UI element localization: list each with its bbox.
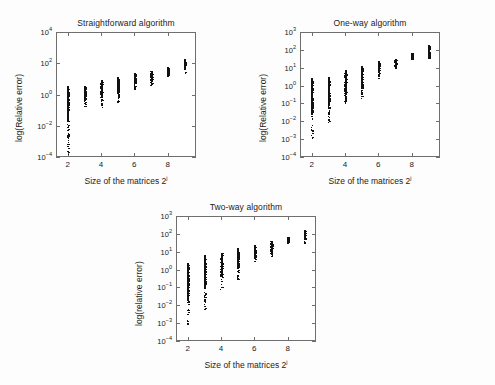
data-point (305, 239, 306, 240)
y-axis-tick (300, 139, 304, 140)
data-point (361, 88, 363, 89)
y-axis-tick (300, 50, 304, 51)
y-axis-tick-label: 10−4 (26, 153, 52, 162)
data-point (220, 289, 221, 290)
y-axis-tick (436, 68, 440, 69)
data-point (68, 129, 70, 130)
x-axis-tick (254, 337, 255, 341)
data-point (411, 58, 413, 59)
y-axis-tick (176, 305, 180, 306)
data-point (151, 82, 152, 83)
x-axis-tick (345, 153, 346, 157)
y-axis-tick (192, 95, 196, 96)
data-point (221, 284, 222, 285)
data-point (68, 140, 69, 141)
data-point (185, 72, 187, 73)
data-point (68, 144, 70, 145)
data-point (237, 277, 238, 278)
data-point (68, 154, 69, 155)
data-point (328, 104, 330, 105)
x-axis-tick (312, 32, 313, 36)
data-point (428, 55, 430, 56)
y-axis-tick (436, 50, 440, 51)
y-axis-tick-label: 10−3 (146, 319, 172, 328)
y-axis-tick-label: 104 (26, 28, 52, 37)
y-axis-tick (300, 68, 304, 69)
x-axis-tick-label: 2 (309, 160, 313, 169)
y-axis-tick-label: 10−1 (146, 283, 172, 292)
data-point (204, 297, 206, 298)
data-point (254, 255, 256, 256)
x-axis-tick-label: 6 (376, 160, 380, 169)
data-point (101, 101, 102, 102)
y-axis-tick-label: 10−2 (270, 117, 296, 126)
data-point (272, 251, 273, 252)
data-point (167, 75, 169, 76)
data-point (237, 279, 239, 280)
y-axis-tick (436, 139, 440, 140)
y-axis-tick (300, 32, 304, 33)
data-point (361, 90, 363, 91)
data-point (238, 271, 239, 272)
y-axis-tick-label: 100 (26, 90, 52, 99)
data-point (204, 300, 206, 301)
x-axis-tick-label: 2 (65, 160, 69, 169)
data-point (117, 93, 119, 94)
y-axis-tick (56, 95, 60, 96)
data-point (271, 253, 272, 254)
data-point (238, 272, 240, 273)
y-axis-tick (176, 341, 180, 342)
x-axis-tick-label: 8 (409, 160, 413, 169)
data-point (311, 135, 312, 136)
data-point (187, 324, 189, 325)
data-point (429, 58, 431, 59)
x-axis-tick (188, 337, 189, 341)
y-axis-tick-label: 101 (146, 247, 172, 256)
data-point (312, 119, 313, 120)
x-axis-label-exponent: j (410, 175, 411, 181)
data-point (134, 89, 136, 90)
x-axis-label-one-way: Size of the matrices 2j (300, 176, 440, 186)
data-point (187, 300, 189, 301)
y-axis-tick-label: 100 (270, 81, 296, 90)
y-axis-tick (176, 216, 180, 217)
chart-panel-two-way: Two-way algorithm Size of the matrices 2… (124, 190, 371, 385)
y-axis-tick (312, 287, 316, 288)
data-point (271, 256, 273, 257)
x-axis-tick (412, 153, 413, 157)
y-axis-tick (312, 216, 316, 217)
data-point (312, 125, 313, 126)
data-point (151, 80, 153, 81)
y-axis-tick (176, 252, 180, 253)
chart-title-two-way: Two-way algorithm (176, 202, 316, 212)
data-point (85, 102, 86, 103)
data-point (378, 76, 379, 77)
data-point (68, 148, 70, 149)
data-point (312, 133, 314, 134)
data-point (84, 100, 86, 101)
data-point (255, 256, 257, 257)
y-axis-tick (436, 157, 440, 158)
data-point (362, 96, 364, 97)
y-axis-tick (176, 287, 180, 288)
data-point (254, 257, 255, 258)
y-axis-tick (300, 103, 304, 104)
y-axis-tick (436, 103, 440, 104)
y-axis-tick (312, 323, 316, 324)
data-point (188, 312, 190, 313)
x-axis-tick (412, 32, 413, 36)
x-axis-tick-label: 4 (219, 344, 223, 353)
data-point (395, 68, 396, 69)
x-axis-tick (134, 32, 135, 36)
data-point (304, 243, 306, 244)
x-axis-tick (101, 153, 102, 157)
data-point (312, 118, 313, 119)
y-axis-tick (312, 341, 316, 342)
data-point (328, 106, 329, 107)
x-axis-tick (101, 32, 102, 36)
data-point (67, 137, 69, 138)
x-axis-tick (345, 32, 346, 36)
data-point (134, 83, 136, 84)
y-axis-tick-label: 10−4 (146, 337, 172, 346)
plot-area-one-way (300, 32, 440, 157)
